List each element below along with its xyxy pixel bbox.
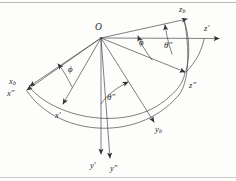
axis-z-b: [101, 19, 187, 38]
axis-label-x-prime: x′: [55, 111, 61, 120]
axis-label-y-prime: y′: [90, 161, 96, 170]
axis-y-b: [101, 38, 154, 122]
axis-label-y-prime-text: y′: [90, 160, 96, 170]
arc-xb-to-zb: [27, 19, 188, 128]
axis-label-z-dprime-text: z″: [189, 80, 196, 90]
arc-zb-to-zdprime: [184, 20, 189, 71]
angle-label-theta-lower-text: θ″: [107, 92, 115, 102]
figure-container: O zb z′ z″ xb x″ x′ yb y′ y″ ϕ θ″ ϕ θ″: [0, 0, 236, 181]
axis-x-dprime: [27, 38, 101, 90]
axis-label-x-dprime-text: x″: [7, 88, 15, 98]
angle-label-phi-upper: ϕ: [139, 38, 144, 47]
axis-label-z-dprime: z″: [189, 81, 196, 90]
axis-label-z-b: zb: [179, 5, 186, 14]
angle-label-theta-upper-text: θ″: [164, 40, 172, 50]
angle-label-phi-upper-text: ϕ: [139, 37, 144, 47]
axis-label-z-b-sub: b: [182, 8, 185, 14]
axis-label-x-b-sub: b: [13, 80, 16, 86]
axis-label-x-b: xb: [9, 77, 16, 86]
axis-label-y-dprime-text: y″: [110, 163, 118, 173]
axis-label-y-b-sub: b: [159, 128, 162, 134]
axis-label-y-b: yb: [155, 125, 162, 134]
axis-label-x-prime-text: x′: [55, 110, 61, 120]
angle-label-theta-lower: θ″: [107, 93, 115, 102]
axis-label-x-dprime: x″: [7, 89, 15, 98]
angle-label-theta-upper: θ″: [164, 41, 172, 50]
axis-label-y-dprime: y″: [110, 164, 118, 173]
axis-z-prime: [101, 38, 219, 39]
axis-label-z-prime: z′: [204, 24, 209, 33]
origin-label: O: [95, 23, 102, 33]
axis-label-z-prime-text: z′: [204, 23, 209, 33]
angle-label-phi-left-text: ϕ: [68, 64, 73, 74]
euler-angle-diagram: [0, 0, 236, 181]
angle-label-phi-left: ϕ: [68, 65, 73, 74]
